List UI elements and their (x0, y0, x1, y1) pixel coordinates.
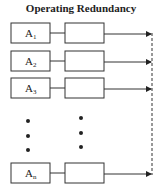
component-row: An (11, 163, 151, 183)
component-row: A2 (11, 51, 151, 71)
ellipsis-dot (26, 119, 30, 123)
ellipsis-dot (79, 131, 83, 135)
component-subscript: n (33, 173, 37, 181)
component-subscript: 2 (33, 61, 37, 69)
ellipsis-dots (26, 116, 83, 152)
ellipsis-dot (26, 148, 30, 152)
component-box-b (65, 23, 104, 43)
redundancy-diagram: A1A2A3An (0, 0, 162, 192)
ellipsis-dot (26, 134, 30, 138)
component-row: A1 (11, 23, 151, 43)
component-subscript: 3 (33, 88, 37, 96)
component-subscript: 1 (33, 33, 37, 41)
ellipsis-dot (79, 145, 83, 149)
ellipsis-dot (79, 116, 83, 120)
component-box-b (65, 51, 104, 71)
component-row: A3 (11, 78, 151, 98)
component-box-b (65, 78, 104, 98)
component-box-b (65, 163, 104, 183)
